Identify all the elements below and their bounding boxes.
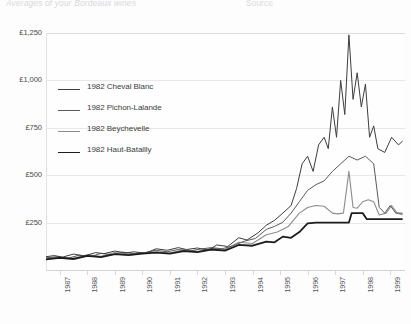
legend-label: 1982 Pichon-Lalande: [87, 103, 162, 112]
x-tick-label-1991: 1991: [173, 277, 182, 293]
x-tick-1988: [87, 271, 88, 275]
legend-swatch-icon: [58, 110, 80, 111]
y-axis-labels: £250£500£750£1,000£1,250: [0, 0, 42, 324]
x-tick-1995: [280, 271, 281, 275]
y-tick-label-1000: £1,000: [19, 75, 42, 84]
x-tick-label-1997: 1997: [338, 277, 347, 293]
x-tick-label-1995: 1995: [283, 277, 292, 293]
x-axis-ticks: 1987198819891990199119921993199419951996…: [46, 271, 404, 323]
faded-header-right: Source: [246, 0, 273, 8]
legend-item-1[interactable]: 1982 Pichon-Lalande: [58, 101, 208, 122]
x-tick-1993: [225, 271, 226, 275]
x-tick-1990: [142, 271, 143, 275]
x-tick-1998: [363, 271, 364, 275]
x-tick-1996: [308, 271, 309, 275]
legend-item-2[interactable]: 1982 Beychevelle: [58, 122, 208, 143]
y-tick-label-500: £500: [26, 170, 43, 179]
legend-swatch-icon: [58, 89, 80, 90]
x-tick-1987: [60, 271, 61, 275]
legend-label: 1982 Cheval Blanc: [87, 82, 153, 91]
x-tick-label-1987: 1987: [63, 277, 72, 293]
x-tick-1999: [390, 271, 391, 275]
x-tick-1997: [335, 271, 336, 275]
x-tick-label-1988: 1988: [90, 277, 99, 293]
legend-label: 1982 Beychevelle: [87, 124, 149, 133]
x-tick-1994: [253, 271, 254, 275]
y-tick-label-250: £250: [26, 218, 43, 227]
x-tick-label-1993: 1993: [228, 277, 237, 293]
chart-page: Averages of your Bordeaux wines Source £…: [0, 0, 411, 324]
x-tick-label-1990: 1990: [145, 277, 154, 293]
x-tick-label-1994: 1994: [256, 277, 265, 293]
x-tick-label-1999: 1999: [393, 277, 402, 293]
legend-item-3[interactable]: 1982 Haut-Batailly: [58, 143, 208, 164]
legend-swatch-icon: [58, 152, 80, 153]
legend-label: 1982 Haut-Batailly: [87, 145, 151, 154]
x-tick-1992: [197, 271, 198, 275]
x-tick-label-1992: 1992: [200, 277, 209, 293]
x-tick-1989: [115, 271, 116, 275]
x-tick-1991: [170, 271, 171, 275]
x-tick-label-1996: 1996: [311, 277, 320, 293]
faded-header-strip: Averages of your Bordeaux wines Source: [0, 0, 411, 14]
legend-swatch-icon: [58, 131, 80, 132]
y-tick-label-750: £750: [26, 123, 43, 132]
x-tick-label-1989: 1989: [118, 277, 127, 293]
series-line-3: [46, 213, 403, 259]
x-tick-label-1998: 1998: [366, 277, 375, 293]
legend-item-0[interactable]: 1982 Cheval Blanc: [58, 80, 208, 101]
y-tick-label-1250: £1,250: [19, 28, 42, 37]
chart-legend: 1982 Cheval Blanc1982 Pichon-Lalande1982…: [58, 80, 208, 164]
